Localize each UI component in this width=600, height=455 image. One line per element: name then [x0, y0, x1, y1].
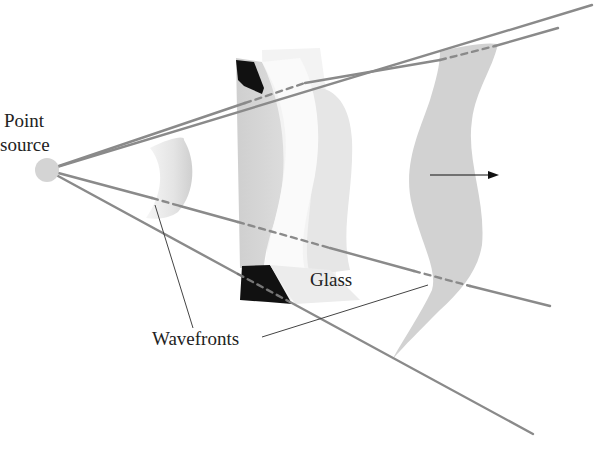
- point-source: [35, 158, 59, 182]
- optics-diagram: Point source Glass Wavefronts: [0, 0, 600, 455]
- wavefronts-label: Wavefronts: [152, 328, 239, 349]
- glass-label: Glass: [310, 269, 352, 290]
- ray-upper-2: [47, 103, 245, 170]
- ray-lower: [47, 170, 238, 274]
- diagram: Point source Glass Wavefronts: [0, 0, 600, 455]
- ray-middle: [47, 170, 152, 198]
- point-source-label-line2: source: [0, 134, 50, 155]
- point-source-label-line1: Point: [4, 110, 45, 131]
- distorted-wavefront: [392, 43, 498, 360]
